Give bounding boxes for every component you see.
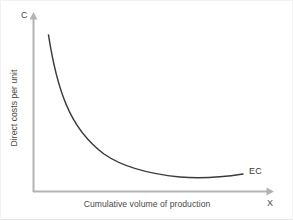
y-axis-symbol-label: C bbox=[21, 10, 28, 20]
x-axis-arrowhead bbox=[267, 188, 275, 196]
experience-curve-figure: C X Direct costs per unit Cumulative vol… bbox=[0, 0, 293, 220]
experience-curve-label: EC bbox=[249, 166, 262, 176]
x-axis-symbol-label: X bbox=[267, 198, 273, 208]
y-axis-arrowhead bbox=[30, 12, 38, 20]
chart-canvas bbox=[0, 0, 293, 220]
x-axis-title: Cumulative volume of production bbox=[33, 199, 261, 209]
experience-curve-path bbox=[49, 35, 244, 178]
y-axis-title: Direct costs per unit bbox=[9, 53, 19, 163]
